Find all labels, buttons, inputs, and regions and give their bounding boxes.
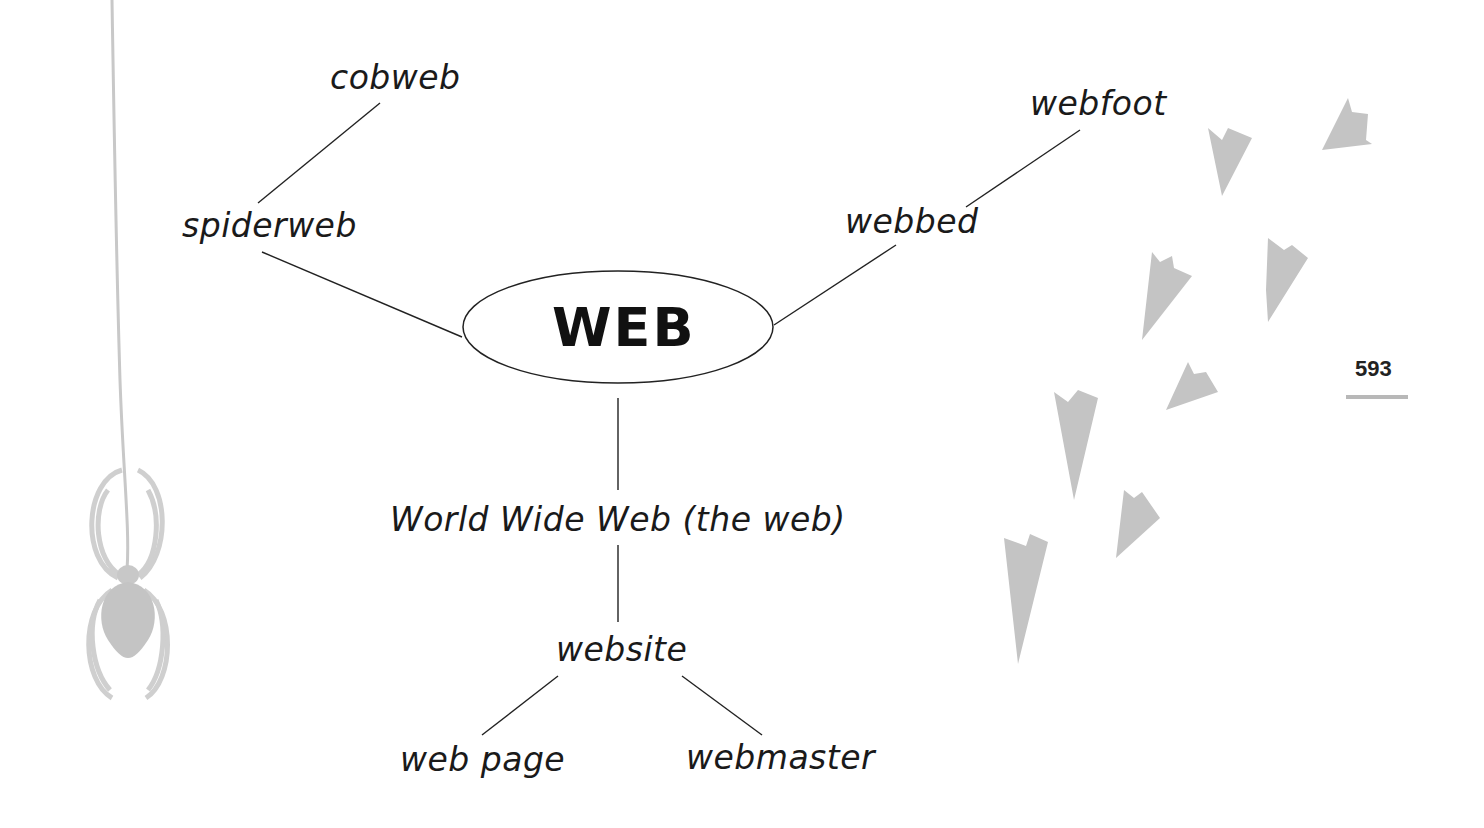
node-cobweb: cobweb xyxy=(330,58,461,97)
edge-website-webmaster xyxy=(682,676,762,735)
edge-spiderweb-web xyxy=(262,252,462,337)
node-web-page: web page xyxy=(400,740,565,779)
edge-cobweb-spiderweb xyxy=(258,103,380,203)
spider-thread xyxy=(112,0,128,570)
footprint-icon xyxy=(1266,238,1308,322)
node-world-wide-web: World Wide Web (the web) xyxy=(390,500,846,539)
page-number-rule xyxy=(1346,395,1408,399)
edge-website-webpage xyxy=(482,676,558,735)
footprints-decoration xyxy=(1004,98,1372,664)
footprint-icon xyxy=(1004,534,1048,664)
node-webbed: webbed xyxy=(845,202,978,241)
spider-body xyxy=(101,582,155,658)
center-node-label: WEB xyxy=(552,296,696,359)
node-webfoot: webfoot xyxy=(1030,84,1167,123)
node-webmaster: webmaster xyxy=(686,738,875,777)
footprint-icon xyxy=(1208,128,1252,196)
footprint-icon xyxy=(1116,490,1160,558)
node-website: website xyxy=(556,630,687,669)
footprint-icon xyxy=(1142,252,1192,340)
page-number: 593 xyxy=(1355,356,1392,382)
diagram-graphics xyxy=(0,0,1484,828)
edge-webbed-web xyxy=(774,245,896,325)
edge-webfoot-webbed xyxy=(966,130,1080,207)
mind-map-diagram: WEB cobweb spiderweb webfoot webbed Worl… xyxy=(0,0,1484,828)
node-spiderweb: spiderweb xyxy=(182,206,357,245)
footprint-icon xyxy=(1322,98,1372,150)
footprint-icon xyxy=(1166,362,1218,410)
footprint-icon xyxy=(1054,390,1098,500)
